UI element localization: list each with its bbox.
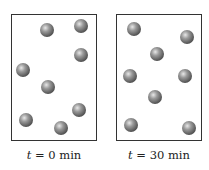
molecule-icon bbox=[178, 69, 192, 83]
time-value: = 0 min bbox=[31, 148, 81, 162]
molecule-icon bbox=[124, 118, 138, 132]
molecule-icon bbox=[41, 80, 55, 94]
molecule-icon bbox=[54, 121, 68, 135]
molecule-icon bbox=[16, 63, 30, 77]
molecule-icon bbox=[123, 69, 137, 83]
label-t0: t = 0 min bbox=[4, 148, 104, 162]
molecule-icon bbox=[74, 19, 88, 33]
molecule-icon bbox=[40, 23, 54, 37]
molecule-icon bbox=[74, 48, 88, 62]
molecule-icon bbox=[19, 113, 33, 127]
molecule-icon bbox=[180, 30, 194, 44]
molecule-icon bbox=[127, 22, 141, 36]
molecule-icon bbox=[148, 90, 162, 104]
molecule-icon bbox=[182, 121, 196, 135]
molecule-icon bbox=[150, 47, 164, 61]
label-t30: t = 30 min bbox=[109, 148, 209, 162]
molecule-icon bbox=[72, 103, 86, 117]
time-value: = 30 min bbox=[133, 148, 190, 162]
